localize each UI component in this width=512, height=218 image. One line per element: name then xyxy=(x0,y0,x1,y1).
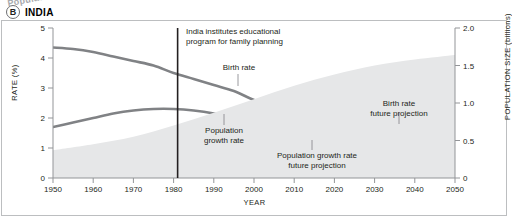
annotation-popgrowth-line-2: growth rate xyxy=(192,136,256,146)
y-axis-right-tick-labels: 0 0.5 1.0 1.5 2.0 xyxy=(463,24,475,183)
annotation-population-growth-projection: Population growth rate future projection xyxy=(257,151,377,170)
svg-text:1980: 1980 xyxy=(165,185,183,194)
svg-text:2030: 2030 xyxy=(366,185,384,194)
y-axis-left-tick-labels: 0 1 2 3 4 5 xyxy=(41,24,46,183)
x-axis-tick-labels: 1950 1960 1970 1980 1990 2000 2010 2020 … xyxy=(44,185,464,194)
annotation-popgrowth-line-1: Population xyxy=(192,126,256,136)
svg-text:1.5: 1.5 xyxy=(463,62,475,71)
svg-text:0: 0 xyxy=(463,174,468,183)
svg-text:2020: 2020 xyxy=(326,185,344,194)
y-axis-right-ticks xyxy=(455,28,460,178)
svg-text:1990: 1990 xyxy=(205,185,223,194)
annotation-popgrowth-proj-line-2: future projection xyxy=(257,161,377,171)
annotation-policy: India institutes educational program for… xyxy=(186,27,326,46)
svg-text:1: 1 xyxy=(41,144,46,153)
svg-text:1970: 1970 xyxy=(125,185,143,194)
annotation-birth-proj-line-1: Birth rate xyxy=(355,99,443,109)
svg-text:1950: 1950 xyxy=(44,185,62,194)
svg-text:5: 5 xyxy=(41,24,46,33)
annotation-policy-line-2: program for family planning xyxy=(186,37,326,47)
svg-text:2040: 2040 xyxy=(406,185,424,194)
annotation-policy-line-1: India institutes educational xyxy=(186,27,326,37)
annotation-birth-rate: Birth rate xyxy=(209,63,269,73)
annotation-birth-rate-projection: Birth rate future projection xyxy=(355,99,443,118)
y-axis-left-ticks xyxy=(48,28,53,178)
svg-text:4: 4 xyxy=(41,54,46,63)
svg-text:2: 2 xyxy=(41,114,46,123)
svg-text:0: 0 xyxy=(41,174,46,183)
svg-text:1.0: 1.0 xyxy=(463,99,475,108)
annotation-birth-proj-line-2: future projection xyxy=(355,109,443,119)
annotation-popgrowth-proj-line-1: Population growth rate xyxy=(257,151,377,161)
svg-text:2010: 2010 xyxy=(285,185,303,194)
annotation-population-growth-rate: Population growth rate xyxy=(192,126,256,145)
svg-text:2050: 2050 xyxy=(446,185,464,194)
svg-text:2000: 2000 xyxy=(245,185,263,194)
svg-text:1960: 1960 xyxy=(84,185,102,194)
svg-text:3: 3 xyxy=(41,84,46,93)
svg-text:0.5: 0.5 xyxy=(463,137,475,146)
svg-text:2.0: 2.0 xyxy=(463,24,475,33)
x-axis-ticks xyxy=(53,178,455,183)
